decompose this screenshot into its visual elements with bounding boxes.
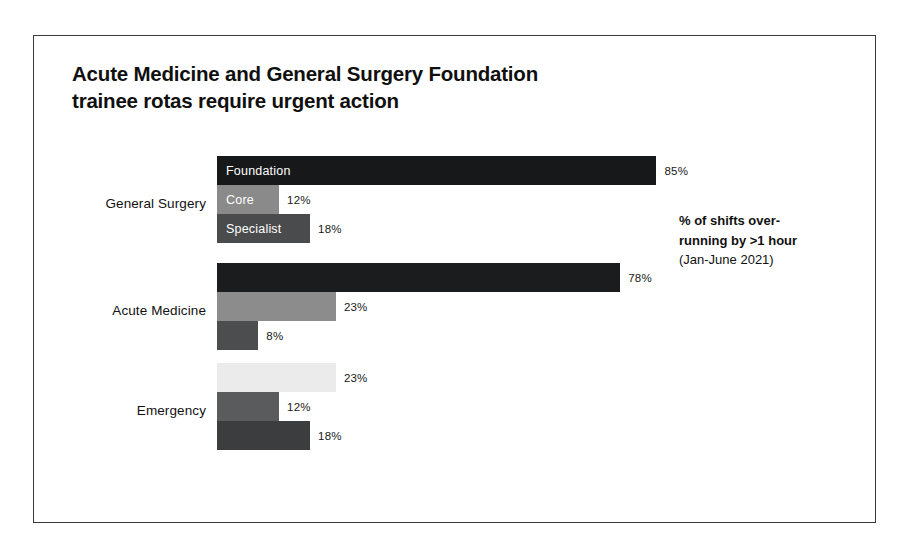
series-label-specialist: Specialist [226, 222, 282, 236]
series-label-foundation: Foundation [226, 164, 291, 178]
value-label: 18% [318, 223, 342, 235]
chart-annotation: % of shifts over- running by >1 hour (Ja… [679, 211, 869, 270]
bar-general-surgery-specialist[interactable]: Specialist [217, 214, 310, 243]
value-label: 12% [287, 401, 311, 413]
bar-general-surgery-core[interactable]: Core [217, 185, 279, 214]
bar-emergency-core[interactable] [217, 392, 279, 421]
category-label-emergency: Emergency [34, 403, 206, 418]
category-label-general-surgery: General Surgery [34, 196, 206, 211]
page-title: Acute Medicine and General Surgery Found… [72, 60, 672, 114]
series-label-core: Core [226, 193, 254, 207]
bar-acute-medicine-specialist[interactable] [217, 321, 258, 350]
value-label: 23% [344, 301, 368, 313]
page-title-line-1: Acute Medicine and General Surgery Found… [72, 60, 672, 87]
bar-row: Foundation 85% [217, 156, 877, 185]
value-label: 8% [266, 330, 283, 342]
bar-row: Core 12% [217, 185, 877, 214]
bar-row: 23% [217, 363, 877, 392]
bar-row: 12% [217, 392, 877, 421]
bar-general-surgery-foundation[interactable]: Foundation [217, 156, 656, 185]
value-label: 12% [287, 194, 311, 206]
value-label: 85% [664, 165, 688, 177]
bar-row: 8% [217, 321, 877, 350]
annotation-line-2: running by >1 hour [679, 231, 869, 251]
bar-emergency-foundation[interactable] [217, 363, 336, 392]
bar-emergency-specialist[interactable] [217, 421, 310, 450]
bar-chart-plot-area: General Surgery Foundation 85% Core 12% [34, 156, 877, 476]
category-label-acute-medicine: Acute Medicine [34, 303, 206, 318]
annotation-line-1: % of shifts over- [679, 211, 869, 231]
screenshot-root: Acute Medicine and General Surgery Found… [0, 0, 906, 555]
annotation-line-3: (Jan-June 2021) [679, 250, 869, 270]
bar-acute-medicine-foundation[interactable] [217, 263, 620, 292]
value-label: 18% [318, 430, 342, 442]
bar-set-acute-medicine: 78% 23% 8% [217, 263, 877, 350]
value-label: 23% [344, 372, 368, 384]
bar-row: 18% [217, 421, 877, 450]
bar-acute-medicine-core[interactable] [217, 292, 336, 321]
bar-set-emergency: 23% 12% 18% [217, 363, 877, 450]
chart-card: Acute Medicine and General Surgery Found… [33, 35, 876, 523]
bar-row: 23% [217, 292, 877, 321]
value-label: 78% [628, 272, 652, 284]
page-title-line-2: trainee rotas require urgent action [72, 87, 672, 114]
